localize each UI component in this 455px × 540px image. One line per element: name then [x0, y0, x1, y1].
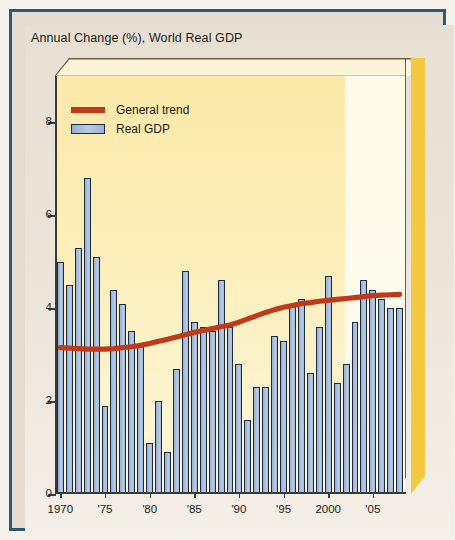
x-tick-label-1985: '85 [187, 503, 202, 515]
y-tick-label-6: 6 [12, 208, 52, 220]
general-trend-line [60, 294, 399, 349]
x-tick-1980 [150, 493, 151, 498]
x-tick-1985 [194, 493, 195, 498]
bevel-top-face [55, 58, 425, 77]
chart-page: Annual Change (%), World Real GDP Genera… [0, 0, 455, 540]
bevel-right-face [405, 58, 425, 494]
y-tick-label-2: 2 [12, 394, 52, 406]
x-tick-label-1995: '95 [276, 503, 291, 515]
y-tick-label-0: 0 [12, 487, 52, 499]
x-tick-1970 [60, 493, 61, 498]
legend-item-general-trend: General trend [71, 100, 189, 119]
legend-label-real-gdp: Real GDP [116, 122, 170, 136]
y-tick-label-4: 4 [12, 301, 52, 313]
x-tick-2005 [373, 493, 374, 498]
x-tick-label-1970: 1970 [48, 503, 74, 515]
plot-block-3d: General trend Real GDP 02468 1970'75'80'… [55, 58, 425, 494]
trend-line-layer [55, 76, 405, 494]
x-tick-1990 [239, 493, 240, 498]
legend-item-real-gdp: Real GDP [71, 119, 189, 138]
legend-line-swatch-icon [71, 107, 105, 113]
chart-title: Annual Change (%), World Real GDP [31, 31, 243, 45]
x-tick-1975 [105, 493, 106, 498]
x-tick-label-1990: '90 [231, 503, 246, 515]
x-tick-label-2005: '05 [365, 503, 380, 515]
y-tick-label-8: 8 [12, 115, 52, 127]
y-axis-line [55, 76, 57, 494]
x-axis-line [55, 492, 406, 494]
x-tick-label-2000: 2000 [315, 503, 341, 515]
x-tick-1995 [284, 493, 285, 498]
x-tick-2000 [328, 493, 329, 498]
legend-bar-swatch-icon [71, 124, 105, 134]
x-tick-label-1975: '75 [98, 503, 113, 515]
legend-label-general-trend: General trend [116, 103, 189, 117]
x-tick-label-1980: '80 [142, 503, 157, 515]
chart-legend: General trend Real GDP [71, 100, 189, 138]
plot-area: General trend Real GDP [55, 76, 405, 494]
